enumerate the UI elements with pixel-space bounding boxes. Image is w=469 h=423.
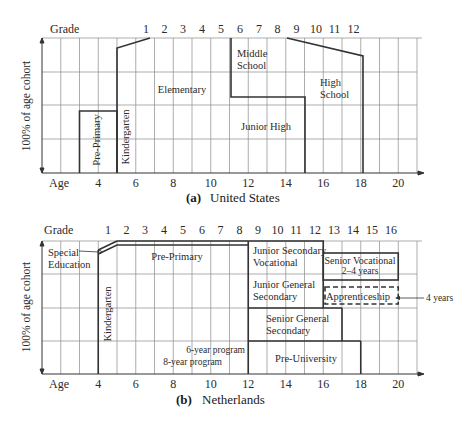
grade-tick: 15 <box>366 223 378 237</box>
grade-tick: 2 <box>124 223 130 237</box>
grade-tick: 7 <box>218 223 224 237</box>
nl-pre-university-label: Pre-University <box>275 353 338 364</box>
panel-b-caption-letter: (b) <box>176 392 192 407</box>
special-education-pointer <box>79 251 99 252</box>
grade-tick: 12 <box>309 223 321 237</box>
grade-tick: 14 <box>347 223 359 237</box>
us-high-school-label-1: High <box>320 77 342 88</box>
panel-a-ylabel: 100% of age cohort <box>20 60 33 151</box>
panel-a-united-states: Grade 1 2 3 4 5 6 7 8 9 10 11 12 Age 4 6… <box>20 22 424 205</box>
age-tick: 20 <box>392 377 404 391</box>
us-pre-primary-label: Pre-Primary <box>91 114 102 166</box>
grade-tick: 3 <box>142 223 148 237</box>
grade-tick: 6 <box>199 223 205 237</box>
grade-tick: 9 <box>255 223 261 237</box>
nl-junior-secondary-vocational-label-1: Junior Secondary <box>253 245 327 256</box>
us-junior-high-label: Junior High <box>241 121 292 132</box>
age-tick: 8 <box>170 377 176 391</box>
grade-tick: 8 <box>237 223 243 237</box>
panel-a-age-label: Age <box>49 176 69 190</box>
grade-tick: 12 <box>348 22 360 36</box>
grade-tick: 3 <box>180 22 186 36</box>
us-middle-school-label-1: Middle <box>237 48 268 59</box>
grade-tick: 1 <box>143 22 149 36</box>
grade-tick: 16 <box>385 223 397 237</box>
panel-b-grade-ticks: 1 2 3 4 5 6 7 8 9 10 11 12 13 14 15 16 <box>105 223 397 237</box>
panel-b-age-label: Age <box>49 377 69 391</box>
panel-b-netherlands: Grade 1 2 3 4 5 6 7 8 9 10 11 12 13 14 1… <box>20 223 453 407</box>
nl-apprenticeship-note: 4 years <box>426 293 453 303</box>
age-tick: 14 <box>280 176 292 190</box>
us-middle-school-label-2: School <box>237 60 266 71</box>
age-tick: 16 <box>317 377 329 391</box>
grade-tick: 8 <box>275 22 281 36</box>
nl-senior-general-secondary-label-2: Secondary <box>266 325 311 336</box>
panel-a-caption-text: United States <box>210 190 280 205</box>
panel-b-age-ticks: 4 6 8 10 12 14 16 18 20 <box>95 377 404 391</box>
grade-tick: 10 <box>272 223 284 237</box>
grade-tick: 9 <box>294 22 300 36</box>
panel-a-grade-label: Grade <box>50 22 79 36</box>
nl-junior-general-secondary-label-2: Secondary <box>253 291 298 302</box>
nl-pre-primary-label: Pre-Primary <box>151 251 203 262</box>
panel-b-caption-text: Netherlands <box>202 392 265 407</box>
age-tick: 8 <box>170 176 176 190</box>
age-tick: 12 <box>242 176 254 190</box>
nl-special-education-label-1: Special <box>48 247 79 258</box>
age-tick: 6 <box>133 176 139 190</box>
nl-eight-year-program-label: 8-year program <box>163 357 222 367</box>
us-elementary-label: Elementary <box>158 84 207 95</box>
grade-tick: 5 <box>180 223 186 237</box>
panel-b-grade-label: Grade <box>44 223 73 237</box>
panel-a-grade-ticks: 1 2 3 4 5 6 7 8 9 10 11 12 <box>143 22 360 36</box>
grade-tick: 1 <box>105 223 111 237</box>
grade-tick: 5 <box>218 22 224 36</box>
nl-junior-general-secondary-label-1: Junior General <box>253 279 315 290</box>
grade-tick: 4 <box>199 22 205 36</box>
age-tick: 4 <box>95 176 101 190</box>
us-kindergarten-label: Kindergarten <box>120 109 131 165</box>
age-tick: 10 <box>205 176 217 190</box>
age-tick: 20 <box>392 176 404 190</box>
panel-a-caption-letter: (a) <box>186 190 201 205</box>
nl-junior-secondary-vocational-label-2: Vocational <box>253 257 298 268</box>
nl-senior-general-secondary-label-1: Senior General <box>266 313 329 324</box>
age-tick: 10 <box>205 377 217 391</box>
nl-senior-vocational-label-1: Senior Vocational <box>324 255 395 266</box>
us-high-school-label-2: School <box>320 89 349 100</box>
age-tick: 18 <box>355 377 367 391</box>
education-systems-diagram: Grade 1 2 3 4 5 6 7 8 9 10 11 12 Age 4 6… <box>0 0 469 423</box>
age-tick: 14 <box>280 377 292 391</box>
grade-tick: 13 <box>328 223 340 237</box>
age-tick: 12 <box>242 377 254 391</box>
panel-b-ylabel: 100% of age cohort <box>20 261 33 352</box>
grade-tick: 11 <box>290 223 302 237</box>
grade-tick: 4 <box>161 223 167 237</box>
grade-tick: 10 <box>310 22 322 36</box>
nl-kindergarten-label: Kindergarten <box>102 286 113 342</box>
grade-tick: 6 <box>237 22 243 36</box>
grade-tick: 11 <box>329 22 341 36</box>
panel-a-age-ticks: 4 6 8 10 12 14 16 18 20 <box>95 176 404 190</box>
age-tick: 18 <box>355 176 367 190</box>
age-tick: 16 <box>317 176 329 190</box>
nl-special-education-label-2: Education <box>48 259 91 270</box>
grade-tick: 7 <box>256 22 262 36</box>
age-tick: 4 <box>95 377 101 391</box>
nl-senior-vocational-label-2: 2–4 years <box>342 266 379 276</box>
age-tick: 6 <box>133 377 139 391</box>
nl-six-year-program-label: 6-year program <box>186 345 245 355</box>
nl-apprenticeship-label: Apprenticeship <box>326 291 390 302</box>
grade-tick: 2 <box>162 22 168 36</box>
